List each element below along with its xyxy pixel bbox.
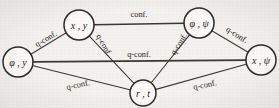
edge-label-r_t-x_psi: q-conf.: [192, 78, 217, 91]
graph-svg: φ , yx , yφ , ψx , ψr , t conf.q-conf.q-…: [0, 0, 279, 108]
edge-label-phi_y-x_y: q-conf.: [34, 29, 59, 49]
node-label-phi_y: φ , y: [9, 57, 27, 68]
node-label-x_psi: x , ψ: [251, 55, 271, 66]
edge-label-x_y-phi_psi: conf.: [131, 10, 148, 19]
node-label-r_t: r , t: [136, 88, 150, 99]
node-phi_y[interactable]: φ , y: [3, 47, 33, 77]
node-r_t[interactable]: r , t: [130, 80, 156, 106]
node-label-x_y: x , y: [70, 20, 88, 31]
edge-phi_y-x_psi: [33, 60, 247, 62]
node-x_psi[interactable]: x , ψ: [246, 45, 276, 75]
edge-label-phi_psi-r_t: q-conf.: [169, 32, 189, 57]
node-label-phi_psi: φ , ψ: [189, 18, 209, 29]
edge-label-phi_y-x_psi: q-conf.: [127, 50, 151, 59]
diagram-canvas: φ , yx , yφ , ψx , ψr , t conf.q-conf.q-…: [0, 0, 279, 108]
edge-label-phi_psi-x_psi: q-conf.: [225, 25, 250, 45]
node-x_y[interactable]: x , y: [64, 10, 94, 40]
edge-x_y-phi_psi: [94, 23, 185, 25]
edge-x_y-r_t: [89, 36, 134, 84]
edge-label-phi_y-r_t: q-conf.: [65, 78, 90, 92]
node-phi_psi[interactable]: φ , ψ: [184, 8, 214, 38]
